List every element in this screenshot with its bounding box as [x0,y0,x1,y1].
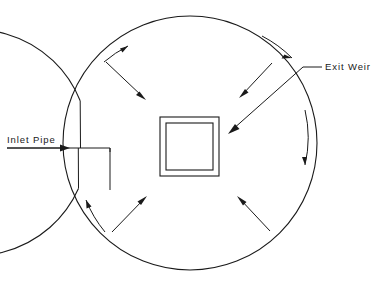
tank-outer-wall [63,16,317,270]
flow-arrow-top-left [104,46,128,62]
flow-arrow-top-right [262,36,292,59]
flow-arrow-right [302,110,308,165]
inlet-pipe-label: Inlet Pipe [7,135,56,145]
diagram-canvas [0,0,377,286]
circular-tank-diagram: Inlet Pipe Exit Weir [0,0,377,286]
radial-arrow-lower-right [237,196,270,231]
inlet-baffle-shelf [68,148,110,152]
radial-arrow-upper-left [106,62,146,100]
exit-weir-inner-square [166,123,213,170]
exit-weir-label: Exit Weir [325,62,371,72]
exit-weir-outer-square [160,117,219,176]
radial-arrow-upper-right [239,63,272,98]
radial-arrow-lower-left [112,196,147,232]
